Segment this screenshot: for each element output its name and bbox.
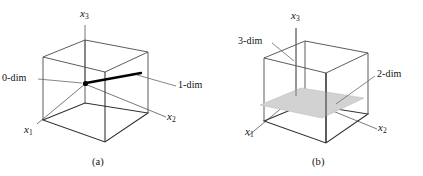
panel-a-axis-label-x1: x1 bbox=[24, 124, 33, 137]
panel-a-cube bbox=[43, 40, 148, 142]
panel-b-label-3-dim: 3-dim bbox=[238, 36, 262, 46]
panel-a-axis-label-x2: x2 bbox=[167, 111, 176, 124]
panel-a-axis-x2-line bbox=[85, 84, 166, 117]
panel-b-axis-label-x2: x2 bbox=[378, 122, 387, 135]
panel-a-one-dim-edge bbox=[86, 73, 141, 83]
panel-a-axis-label-x3: x3 bbox=[80, 8, 89, 21]
panel-a-zero-dim-leader bbox=[38, 79, 82, 83]
panel-b-cube-top-face bbox=[264, 41, 368, 73]
panel-b-axis-label-x1: x1 bbox=[245, 126, 254, 139]
panel-b-three-dim-leader bbox=[272, 43, 294, 61]
panel-b-graphics bbox=[248, 28, 377, 143]
panel-a-caption: (a) bbox=[92, 157, 104, 168]
panel-b-axis-label-x3: x3 bbox=[291, 10, 300, 23]
panel-a-zero-dim-vertex bbox=[83, 81, 88, 86]
panel-b-label-2-dim: 2-dim bbox=[377, 69, 401, 79]
panel-a-axes bbox=[37, 25, 166, 124]
panel-b-caption: (b) bbox=[312, 157, 325, 168]
panel-a-cube-bottom-face bbox=[43, 103, 148, 142]
panel-a-cube-top-face bbox=[43, 40, 148, 72]
panel-a-label-0-dim: 0-dim bbox=[2, 73, 26, 83]
panel-a-label-1-dim: 1-dim bbox=[178, 80, 202, 90]
figure-graphics bbox=[0, 0, 423, 176]
figure-container: x3 x1 x2 0-dim 1-dim (a) x3 x1 x2 3-dim … bbox=[0, 0, 423, 176]
panel-a-one-dim-leader bbox=[137, 75, 176, 86]
panel-a-graphics bbox=[37, 25, 176, 142]
panel-a-axis-x1-line bbox=[37, 84, 85, 124]
